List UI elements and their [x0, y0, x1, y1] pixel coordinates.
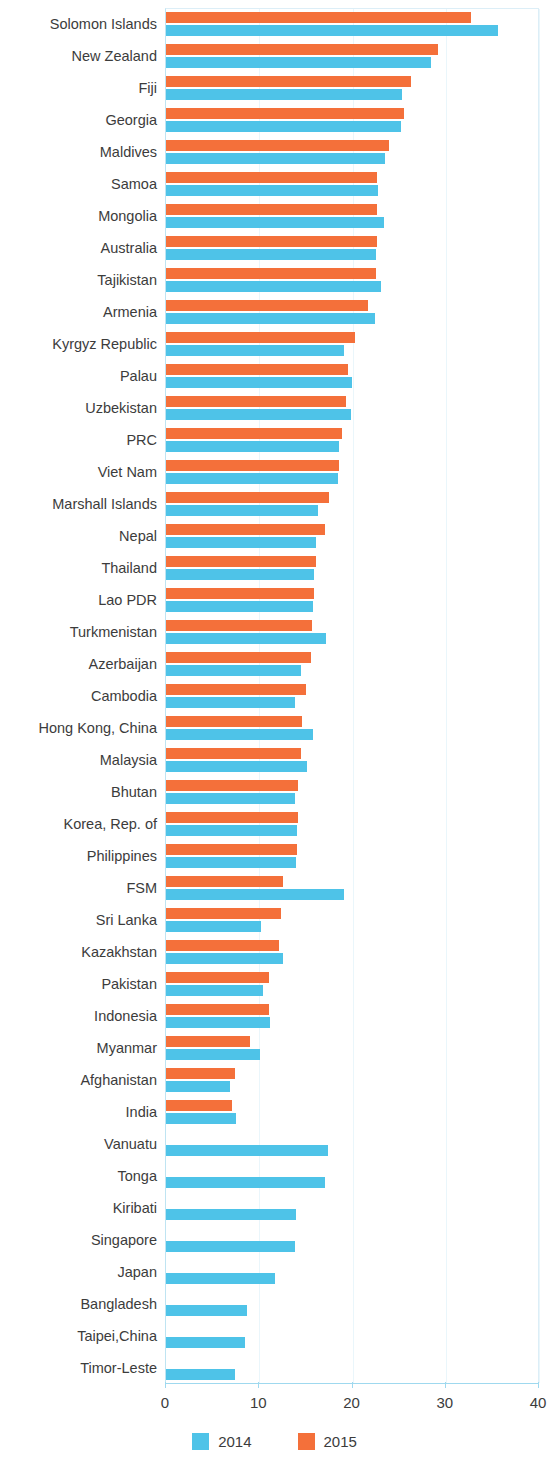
category-label: Lao PDR: [0, 592, 157, 608]
bar-row: [166, 1289, 538, 1321]
bar-2014: [166, 1177, 325, 1188]
bar-row: [166, 969, 538, 1001]
bar-2014: [166, 857, 296, 868]
bar-row: [166, 1161, 538, 1193]
bar-2015: [166, 908, 281, 919]
bar-2015: [166, 812, 298, 823]
category-axis-labels: Solomon IslandsNew ZealandFijiGeorgiaMal…: [0, 8, 157, 1384]
category-label: Georgia: [0, 112, 157, 128]
bar-2014: [166, 313, 375, 324]
bar-2014: [166, 953, 283, 964]
bar-2015: [166, 108, 404, 119]
bar-row: [166, 713, 538, 745]
bar-row: [166, 73, 538, 105]
bar-2015: [166, 620, 312, 631]
bar-row: [166, 1225, 538, 1257]
bar-row: [166, 1097, 538, 1129]
category-label: Myanmar: [0, 1040, 157, 1056]
category-label: Indonesia: [0, 1008, 157, 1024]
bar-2015: [166, 268, 376, 279]
legend-item-2014[interactable]: 2014: [192, 1433, 251, 1450]
category-label: PRC: [0, 432, 157, 448]
bar-2015: [166, 588, 314, 599]
category-label: Nepal: [0, 528, 157, 544]
category-label: Viet Nam: [0, 464, 157, 480]
bar-2015: [166, 76, 411, 87]
bar-2015: [166, 684, 306, 695]
bar-row: [166, 617, 538, 649]
category-label: Bangladesh: [0, 1296, 157, 1312]
bar-2015: [166, 492, 329, 503]
x-tick-mark: [258, 1382, 259, 1388]
bar-2015: [166, 524, 325, 535]
bar-row: [166, 1353, 538, 1385]
bar-2014: [166, 633, 326, 644]
bar-2014: [166, 217, 384, 228]
x-tick-label: 30: [436, 1394, 453, 1411]
bar-2014: [166, 1145, 328, 1156]
bar-2015: [166, 236, 377, 247]
category-label: Japan: [0, 1264, 157, 1280]
bar-row: [166, 489, 538, 521]
bar-2015: [166, 204, 377, 215]
legend-swatch-icon: [192, 1433, 209, 1450]
bar-chart: Solomon IslandsNew ZealandFijiGeorgiaMal…: [0, 0, 549, 1458]
value-axis: 010203040: [0, 1386, 549, 1416]
bar-row: [166, 809, 538, 841]
category-label: Kiribati: [0, 1200, 157, 1216]
bar-row: [166, 777, 538, 809]
category-label: Pakistan: [0, 976, 157, 992]
bar-row: [166, 649, 538, 681]
bar-2014: [166, 121, 401, 132]
bar-2015: [166, 748, 301, 759]
bar-2014: [166, 697, 295, 708]
bar-2015: [166, 332, 355, 343]
category-label: Cambodia: [0, 688, 157, 704]
bar-row: [166, 297, 538, 329]
bar-2015: [166, 172, 377, 183]
bar-2014: [166, 1209, 296, 1220]
bar-2014: [166, 1305, 247, 1316]
bar-2015: [166, 844, 297, 855]
bar-2014: [166, 793, 295, 804]
bar-2014: [166, 537, 316, 548]
bar-2015: [166, 1036, 250, 1047]
category-label: Palau: [0, 368, 157, 384]
category-label: Philippines: [0, 848, 157, 864]
bar-2014: [166, 249, 376, 260]
category-label: Malaysia: [0, 752, 157, 768]
bar-2014: [166, 601, 313, 612]
bar-2015: [166, 1068, 235, 1079]
bar-row: [166, 169, 538, 201]
bar-2014: [166, 89, 402, 100]
category-label: FSM: [0, 880, 157, 896]
bar-2015: [166, 1004, 269, 1015]
bar-row: [166, 1321, 538, 1353]
bar-row: [166, 1257, 538, 1289]
category-label: Thailand: [0, 560, 157, 576]
bar-2015: [166, 12, 471, 23]
bar-row: [166, 329, 538, 361]
category-label: Sri Lanka: [0, 912, 157, 928]
bar-2014: [166, 921, 261, 932]
bar-row: [166, 137, 538, 169]
bar-row: [166, 41, 538, 73]
bar-2014: [166, 1113, 236, 1124]
bar-2014: [166, 1273, 275, 1284]
category-label: Turkmenistan: [0, 624, 157, 640]
bar-2015: [166, 972, 269, 983]
bar-2015: [166, 460, 339, 471]
bar-2014: [166, 1241, 295, 1252]
legend-item-2015[interactable]: 2015: [298, 1433, 357, 1450]
bar-2014: [166, 345, 344, 356]
bar-row: [166, 1065, 538, 1097]
category-label: Marshall Islands: [0, 496, 157, 512]
bar-row: [166, 9, 538, 41]
legend-label: 2015: [324, 1433, 357, 1450]
bar-row: [166, 105, 538, 137]
bar-row: [166, 265, 538, 297]
category-label: Kyrgyz Republic: [0, 336, 157, 352]
bar-2015: [166, 428, 342, 439]
bar-2015: [166, 780, 298, 791]
bar-2014: [166, 57, 431, 68]
